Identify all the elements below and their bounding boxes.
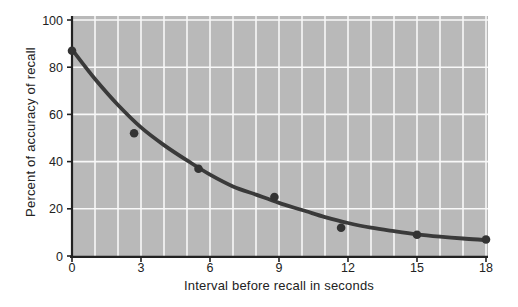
x-axis-title: Interval before recall in seconds xyxy=(184,278,374,293)
y-tick-label-0: 0 xyxy=(56,250,63,264)
x-tick-label-6: 6 xyxy=(207,261,214,275)
x-tick-label-18: 18 xyxy=(479,261,493,275)
x-tick-label-9: 9 xyxy=(276,261,283,275)
data-point-x0 xyxy=(68,46,77,55)
data-point-x5.5 xyxy=(194,164,203,173)
x-tick-label-12: 12 xyxy=(341,261,355,275)
x-tick-label-3: 3 xyxy=(138,261,145,275)
x-tick-label-0: 0 xyxy=(69,261,76,275)
y-tick-label-20: 20 xyxy=(49,202,63,216)
data-point-x8.8 xyxy=(270,193,279,202)
data-point-x15 xyxy=(413,230,422,239)
y-tick-label-80: 80 xyxy=(49,61,63,75)
data-point-x2.7 xyxy=(130,129,139,138)
x-tick-label-15: 15 xyxy=(410,261,424,275)
data-point-x11.7 xyxy=(337,223,346,232)
plot-canvas: 0204060801000369121518 xyxy=(0,0,518,307)
y-axis-title: Percent of accuracy of recall xyxy=(23,47,38,217)
recall-accuracy-chart: 0204060801000369121518 Percent of accura… xyxy=(0,0,518,307)
data-point-x18 xyxy=(482,235,491,244)
y-tick-label-40: 40 xyxy=(49,155,63,169)
y-tick-label-60: 60 xyxy=(49,108,63,122)
y-tick-label-100: 100 xyxy=(42,14,63,28)
